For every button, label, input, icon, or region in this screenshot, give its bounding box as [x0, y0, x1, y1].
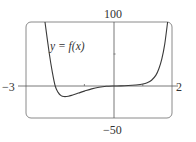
plot-frame	[26, 22, 172, 118]
function-curve	[45, 22, 168, 97]
x-min-label: −3	[2, 81, 15, 93]
y-max-label: 100	[104, 8, 122, 20]
plot-area	[0, 0, 196, 142]
x-max-label: 2	[176, 81, 182, 93]
function-label: y = f(x)	[50, 41, 85, 53]
y-min-label: −50	[103, 124, 122, 136]
